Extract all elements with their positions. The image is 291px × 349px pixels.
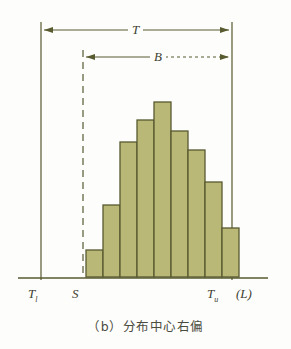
histogram-bar	[188, 150, 205, 277]
histogram-bar	[154, 102, 171, 277]
dimension-label-total: T	[128, 23, 143, 36]
histogram-bar	[103, 205, 120, 277]
axis-label-dimension-symbol: (L)	[236, 287, 252, 300]
histogram-bar	[222, 228, 239, 277]
figure-caption: （b）分布中心右偏	[0, 316, 291, 335]
histogram-bar	[171, 131, 188, 277]
histogram-bars	[86, 102, 239, 277]
dimension-label-process: B	[150, 50, 166, 63]
axis-label-tolerance-lower-sub: l	[35, 295, 37, 304]
axis-label-spec-start: S	[72, 287, 79, 300]
axis-label-tolerance-upper-sub: u	[214, 295, 218, 304]
axis-label-tolerance-lower: Tl	[28, 287, 37, 304]
histogram-figure: T B Tl S Tu (L) （b）分布中心右偏	[0, 0, 291, 349]
histogram-bar	[137, 120, 154, 277]
axis-label-tolerance-upper: Tu	[207, 287, 218, 304]
histogram-bar	[205, 182, 222, 277]
histogram-bar	[86, 250, 103, 277]
histogram-bar	[120, 142, 137, 277]
